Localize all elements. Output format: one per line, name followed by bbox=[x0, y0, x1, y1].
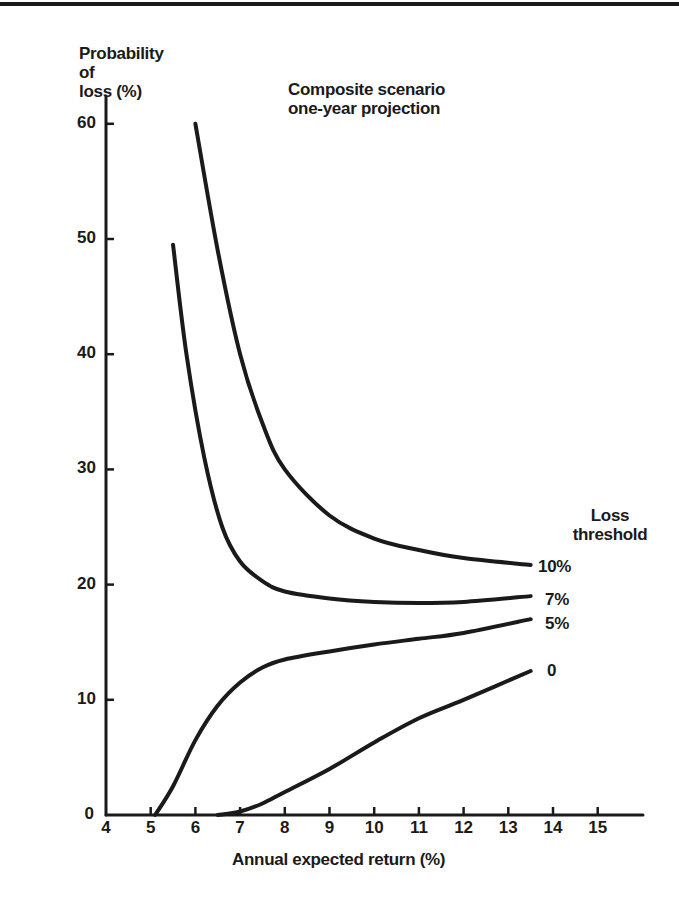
legend-label-5: 5% bbox=[545, 614, 569, 633]
x-tick-label: 5 bbox=[131, 818, 171, 838]
y-tick-label: 40 bbox=[56, 343, 96, 363]
x-tick-label: 7 bbox=[220, 818, 260, 838]
x-tick-label: 10 bbox=[354, 818, 394, 838]
x-tick-label: 12 bbox=[444, 818, 484, 838]
x-tick-label: 4 bbox=[86, 818, 126, 838]
x-tick-label: 6 bbox=[175, 818, 215, 838]
chart-canvas bbox=[0, 0, 679, 903]
legend-label-7: 7% bbox=[545, 590, 569, 609]
y-axis-title: Probability of loss (%) bbox=[79, 44, 164, 101]
y-axis-title-line: loss (%) bbox=[79, 82, 164, 101]
curve-loss-threshold-0 bbox=[218, 671, 531, 815]
y-axis-title-line: of bbox=[79, 63, 164, 82]
x-tick-label: 15 bbox=[578, 818, 618, 838]
x-tick-label: 11 bbox=[399, 818, 439, 838]
curve-loss-threshold-10 bbox=[195, 124, 530, 565]
legend-title-line: threshold bbox=[565, 525, 655, 544]
legend-title: Loss threshold bbox=[565, 506, 655, 544]
chart-title-line: Composite scenario bbox=[288, 80, 445, 99]
chart-title: Composite scenario one-year projection bbox=[288, 80, 445, 118]
y-tick-label: 60 bbox=[56, 113, 96, 133]
y-axis-title-line: Probability bbox=[79, 44, 164, 63]
curve-loss-threshold-5 bbox=[155, 619, 530, 815]
legend-label-10: 10% bbox=[538, 557, 571, 576]
x-tick-label: 8 bbox=[265, 818, 305, 838]
x-tick-label: 9 bbox=[310, 818, 350, 838]
y-tick-label: 50 bbox=[56, 228, 96, 248]
chart-title-line: one-year projection bbox=[288, 99, 445, 118]
y-tick-label: 10 bbox=[56, 689, 96, 709]
legend-label-0: 0 bbox=[547, 661, 556, 680]
legend-title-line: Loss bbox=[565, 506, 655, 525]
x-tick-label: 13 bbox=[488, 818, 528, 838]
x-tick-label: 14 bbox=[533, 818, 573, 838]
y-tick-label: 20 bbox=[56, 574, 96, 594]
y-tick-label: 30 bbox=[56, 458, 96, 478]
x-axis-title: Annual expected return (%) bbox=[232, 850, 445, 869]
